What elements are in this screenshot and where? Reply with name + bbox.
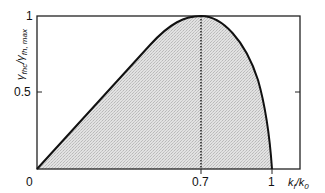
y-tick-label-0.5: 0.5 [14, 85, 31, 99]
y-axis-label: γfhc/γfh, max [14, 28, 29, 80]
x-tick-label-1: 1 [268, 175, 275, 189]
chart: 0 0.7 1 0.5 1 kf/k0 γfhc/γfh, max [0, 0, 325, 193]
x-axis-label: kf/k0 [288, 176, 309, 191]
y-tick-label-1: 1 [26, 9, 33, 23]
x-tick-label-0: 0 [26, 175, 33, 189]
x-tick-label-0.7: 0.7 [192, 175, 209, 189]
